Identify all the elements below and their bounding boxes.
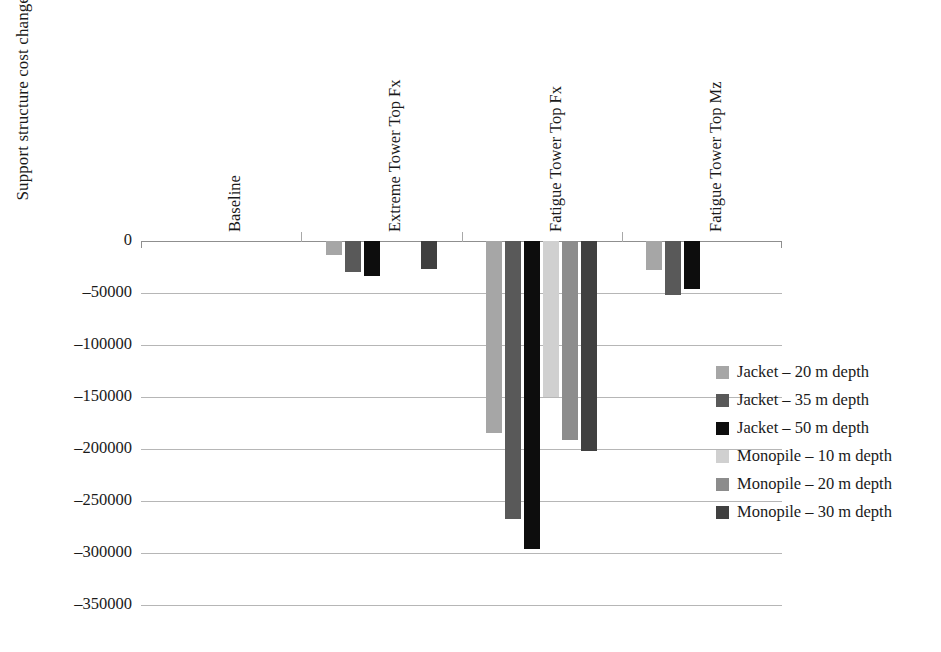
legend-swatch-icon <box>716 506 729 519</box>
legend-swatch-icon <box>716 450 729 463</box>
bar <box>646 241 662 270</box>
axis-right-cap <box>781 241 782 248</box>
legend: Jacket – 20 m depthJacket – 35 m depthJa… <box>716 358 941 526</box>
legend-item: Monopile – 30 m depth <box>716 498 941 526</box>
bar <box>524 241 540 549</box>
bar <box>543 241 559 397</box>
bar <box>665 241 681 295</box>
axis-left-cap <box>141 241 142 248</box>
bar <box>684 241 700 289</box>
category-label: Baseline <box>227 175 243 232</box>
legend-item: Monopile – 20 m depth <box>716 470 941 498</box>
y-tick-label: –50000 <box>29 284 141 300</box>
category-tick <box>622 232 623 242</box>
gridline <box>141 293 782 294</box>
y-tick-label: –100000 <box>29 336 141 352</box>
category-tick <box>462 232 463 242</box>
legend-swatch-icon <box>716 478 729 491</box>
y-tick-label: –300000 <box>29 544 141 560</box>
bar <box>505 241 521 519</box>
legend-item: Monopile – 10 m depth <box>716 442 941 470</box>
category-tick <box>301 232 302 242</box>
gridline <box>141 605 782 606</box>
legend-swatch-icon <box>716 366 729 379</box>
y-tick-label: –150000 <box>29 388 141 404</box>
gridline <box>141 345 782 346</box>
legend-item: Jacket – 20 m depth <box>716 358 941 386</box>
gridline <box>141 449 782 450</box>
bar <box>421 241 437 269</box>
y-tick-label: 0 <box>29 232 141 248</box>
plot-area <box>141 241 782 605</box>
y-tick-label: –200000 <box>29 440 141 456</box>
y-tick-label: –250000 <box>29 492 141 508</box>
gridline <box>141 397 782 398</box>
legend-label: Jacket – 50 m depth <box>737 419 869 437</box>
legend-label: Monopile – 20 m depth <box>737 475 892 493</box>
gridline <box>141 553 782 554</box>
legend-label: Monopile – 10 m depth <box>737 447 892 465</box>
bar <box>364 241 380 276</box>
bar <box>345 241 361 272</box>
legend-swatch-icon <box>716 394 729 407</box>
legend-label: Jacket – 35 m depth <box>737 391 869 409</box>
bar-chart: Support structure cost change (€) 0–5000… <box>0 0 941 652</box>
legend-item: Jacket – 35 m depth <box>716 386 941 414</box>
legend-label: Jacket – 20 m depth <box>737 363 869 381</box>
legend-label: Monopile – 30 m depth <box>737 503 892 521</box>
y-tick-label: –350000 <box>29 596 141 612</box>
legend-swatch-icon <box>716 422 729 435</box>
category-label: Fatigue Tower Top Mz <box>708 81 724 232</box>
y-axis-tick-labels: 0–50000–100000–150000–200000–250000–3000… <box>18 0 141 652</box>
bar <box>326 241 342 255</box>
category-label: Fatigue Tower Top Fx <box>548 86 564 232</box>
bar <box>486 241 502 433</box>
legend-item: Jacket – 50 m depth <box>716 414 941 442</box>
gridline <box>141 501 782 502</box>
bar <box>581 241 597 451</box>
bar <box>562 241 578 440</box>
category-label: Extreme Tower Top Fx <box>387 80 403 232</box>
